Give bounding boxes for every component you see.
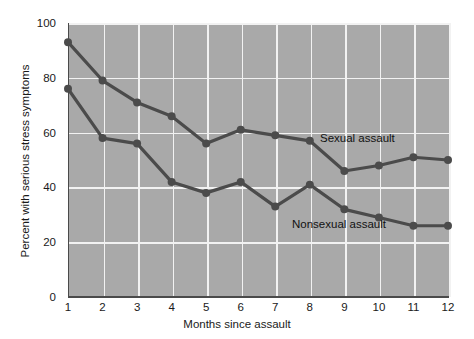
gridline-horizontal xyxy=(69,23,449,25)
y-axis-title: Percent with serious stress symptoms xyxy=(19,41,31,281)
x-axis-tick-label: 7 xyxy=(272,301,278,313)
x-axis-tick-labels: 123456789101112 xyxy=(68,301,448,319)
y-axis-tick-label: 100 xyxy=(37,17,56,29)
chart-figure: 020406080100 123456789101112 Sexual assa… xyxy=(0,0,474,339)
gridline-vertical xyxy=(276,23,278,297)
gridline-vertical xyxy=(242,23,244,297)
y-axis-tick-label: 0 xyxy=(50,291,56,303)
x-axis-tick-label: 9 xyxy=(341,301,347,313)
x-axis-tick-label: 8 xyxy=(307,301,313,313)
x-axis-title: Months since assault xyxy=(0,318,474,330)
y-axis-tick-label: 40 xyxy=(43,181,56,193)
plot-area xyxy=(68,23,449,297)
gridline-vertical xyxy=(138,23,140,297)
x-axis-tick-label: 2 xyxy=(99,301,105,313)
x-axis-tick-label: 3 xyxy=(134,301,140,313)
gridline-vertical xyxy=(207,23,209,297)
gridline-vertical xyxy=(173,23,175,297)
y-axis-tick-label: 60 xyxy=(43,127,56,139)
gridline-vertical xyxy=(380,23,382,297)
y-axis-tick-labels: 020406080100 xyxy=(0,0,64,339)
gridline-horizontal xyxy=(69,242,449,244)
gridline-vertical xyxy=(104,23,106,297)
x-axis-tick-label: 1 xyxy=(65,301,71,313)
gridline-horizontal xyxy=(69,187,449,189)
x-axis-tick-label: 12 xyxy=(442,301,455,313)
series-label-sexual-assault: Sexual assault xyxy=(320,132,395,144)
series-label-nonsexual-assault: Nonsexual assault xyxy=(292,218,386,230)
gridline-horizontal xyxy=(69,78,449,80)
gridline-vertical xyxy=(414,23,416,297)
x-axis-tick-label: 6 xyxy=(238,301,244,313)
y-axis-tick-label: 80 xyxy=(43,72,56,84)
x-axis-line xyxy=(68,296,449,298)
x-axis-tick-label: 11 xyxy=(407,301,419,313)
gridline-vertical xyxy=(449,23,451,297)
gridline-vertical xyxy=(345,23,347,297)
gridline-vertical xyxy=(311,23,313,297)
x-axis-tick-label: 10 xyxy=(373,301,386,313)
y-axis-tick-label: 20 xyxy=(43,236,56,248)
x-axis-tick-label: 5 xyxy=(203,301,209,313)
x-axis-tick-label: 4 xyxy=(168,301,174,313)
